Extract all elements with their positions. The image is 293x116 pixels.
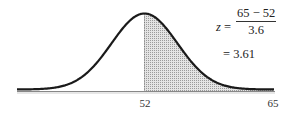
z-denominator: 3.6: [248, 22, 264, 38]
z-numerator: 65 − 52: [236, 6, 276, 22]
equals-sign: =: [224, 20, 231, 34]
tick-label-52: 52: [140, 97, 151, 109]
z-variable: z =: [216, 20, 231, 35]
z-fraction: 65 − 52 3.6: [236, 6, 276, 38]
z-symbol: z: [216, 20, 221, 34]
z-result: = 3.61: [223, 47, 255, 62]
tick-label-65: 65: [268, 97, 279, 109]
